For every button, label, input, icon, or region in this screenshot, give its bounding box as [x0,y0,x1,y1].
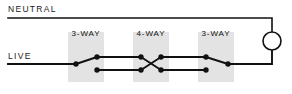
terminal-node [225,61,230,66]
terminal-node [94,54,99,59]
terminal-node [203,67,208,72]
switch-label-3way-left: 3-WAY [66,30,106,38]
wiring-canvas [0,0,292,94]
terminal-node [94,67,99,72]
neutral-rail-label: NEUTRAL [8,5,57,14]
live-rail-label: LIVE [8,52,32,61]
terminal-node [203,54,208,59]
terminal-node [138,54,143,59]
lamp-icon [263,32,281,50]
terminal-node [158,54,163,59]
wiring-diagram: NEUTRAL LIVE 3-WAY 4-WAY 3-WAY [0,0,292,94]
terminal-node [158,67,163,72]
terminal-node [138,67,143,72]
lamp-return-wire [228,50,272,64]
switch-label-4way-middle: 4-WAY [131,30,171,38]
terminal-node [73,61,78,66]
switch-label-3way-right: 3-WAY [196,30,236,38]
